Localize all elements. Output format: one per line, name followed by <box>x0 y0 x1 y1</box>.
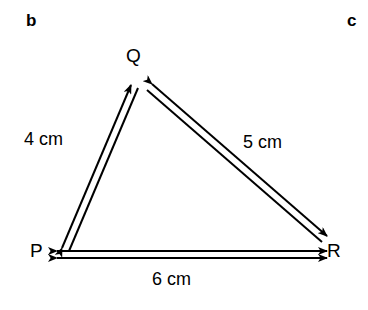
side-pq-line <box>62 85 138 251</box>
diagram-canvas: b c Q P R 4 cm 5 cm 6 cm <box>0 0 368 310</box>
side-length-pq: 4 cm <box>24 130 63 148</box>
vertex-label-p: P <box>30 241 43 260</box>
vertex-label-q: Q <box>126 46 141 65</box>
side-qr-line <box>147 84 327 242</box>
side-pr-line <box>57 251 327 258</box>
triangle-figure <box>0 0 368 310</box>
vertex-label-r: R <box>327 241 341 260</box>
side-length-qr: 5 cm <box>243 133 282 151</box>
side-length-pr: 6 cm <box>152 270 191 288</box>
